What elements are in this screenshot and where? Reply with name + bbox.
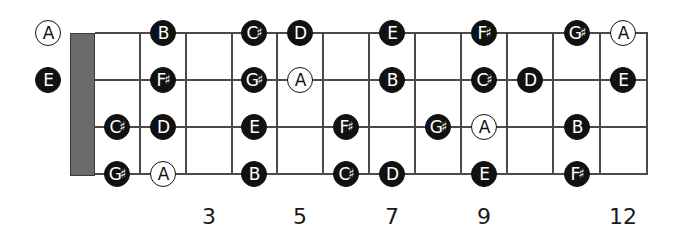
sharp-icon: ♯ xyxy=(580,26,585,39)
note-marker: A xyxy=(287,67,313,93)
note-marker: D xyxy=(287,20,313,46)
note-marker: E xyxy=(241,114,267,140)
note-marker: G♯ xyxy=(104,161,130,187)
note-marker: B xyxy=(241,161,267,187)
sharp-icon: ♯ xyxy=(485,26,490,39)
fret-line-7 xyxy=(414,32,416,175)
fret-line-4 xyxy=(276,32,278,175)
sharp-icon: ♯ xyxy=(347,120,352,133)
note-marker: B xyxy=(379,67,405,93)
fret-line-12 xyxy=(646,32,648,175)
fretboard-diagram: ABC♯DEF♯G♯AEF♯G♯ABC♯DEC♯DEF♯G♯ABG♯ABC♯DE… xyxy=(0,0,681,242)
note-letter: D xyxy=(294,25,306,42)
fret-line-8 xyxy=(460,32,462,175)
note-letter: D xyxy=(157,119,169,136)
note-marker: E xyxy=(379,20,405,46)
note-marker: E xyxy=(471,161,497,187)
sharp-icon: ♯ xyxy=(348,167,353,180)
fret-number-label: 7 xyxy=(385,204,399,229)
sharp-icon: ♯ xyxy=(164,73,169,86)
string-line-2 xyxy=(95,79,648,81)
note-letter: E xyxy=(249,119,259,136)
fret-line-5 xyxy=(322,32,324,175)
sharp-icon: ♯ xyxy=(486,73,491,86)
note-letter: A xyxy=(158,166,169,183)
sharp-icon: ♯ xyxy=(441,120,446,133)
note-letter: D xyxy=(386,166,398,183)
note-letter: B xyxy=(158,25,169,42)
note-letter: E xyxy=(618,72,628,89)
fret-line-3 xyxy=(231,32,233,175)
fret-line-2 xyxy=(185,32,187,175)
note-marker: B xyxy=(150,20,176,46)
note-letter: A xyxy=(479,119,490,136)
note-marker: F♯ xyxy=(333,114,359,140)
note-marker: A xyxy=(35,20,61,46)
note-marker: C♯ xyxy=(104,114,130,140)
note-marker: F♯ xyxy=(564,161,590,187)
note-marker: F♯ xyxy=(150,67,176,93)
note-marker: G♯ xyxy=(425,114,451,140)
note-marker: B xyxy=(564,114,590,140)
fret-number-label: 9 xyxy=(477,204,491,229)
nut xyxy=(70,33,95,176)
fret-number-label: 5 xyxy=(293,204,307,229)
fret-line-1 xyxy=(139,32,141,175)
note-marker: C♯ xyxy=(241,20,267,46)
note-marker: G♯ xyxy=(241,67,267,93)
note-marker: E xyxy=(35,67,61,93)
fret-line-10 xyxy=(552,32,554,175)
note-letter: A xyxy=(43,25,54,42)
note-letter: D xyxy=(524,72,536,89)
note-marker: D xyxy=(379,161,405,187)
note-marker: G♯ xyxy=(564,20,590,46)
fret-line-11 xyxy=(599,32,601,175)
fret-line-9 xyxy=(506,32,508,175)
fret-number-label: 3 xyxy=(202,204,216,229)
note-marker: D xyxy=(517,67,543,93)
fret-line-6 xyxy=(368,32,370,175)
note-marker: C♯ xyxy=(333,161,359,187)
note-marker: A xyxy=(150,161,176,187)
note-marker: E xyxy=(610,67,636,93)
note-marker: A xyxy=(610,20,636,46)
note-letter: E xyxy=(479,166,489,183)
note-letter: B xyxy=(572,119,583,136)
note-marker: C♯ xyxy=(471,67,497,93)
note-marker: D xyxy=(150,114,176,140)
note-letter: E xyxy=(387,25,397,42)
note-letter: A xyxy=(618,25,629,42)
note-marker: A xyxy=(471,114,497,140)
sharp-icon: ♯ xyxy=(256,26,261,39)
sharp-icon: ♯ xyxy=(120,167,125,180)
sharp-icon: ♯ xyxy=(578,167,583,180)
note-letter: B xyxy=(249,166,260,183)
sharp-icon: ♯ xyxy=(257,73,262,86)
sharp-icon: ♯ xyxy=(119,120,124,133)
note-letter: A xyxy=(295,72,306,89)
fret-number-label: 12 xyxy=(609,204,637,229)
note-letter: E xyxy=(43,72,53,89)
note-letter: B xyxy=(387,72,398,89)
note-marker: F♯ xyxy=(471,20,497,46)
